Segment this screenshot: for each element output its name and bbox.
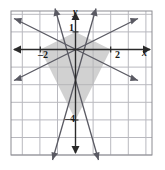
axis-label-x: x [142,48,147,58]
coordinate-plane-figure: 1 –2 2 –4 x y [0,0,165,170]
coordinate-plot [0,0,165,170]
tick-label-x-neg2: –2 [38,50,48,60]
tick-label-y-1: 1 [69,23,74,33]
tick-label-x-2: 2 [115,50,120,60]
tick-label-y-neg4: –4 [65,114,75,124]
axis-label-y: y [73,7,77,17]
